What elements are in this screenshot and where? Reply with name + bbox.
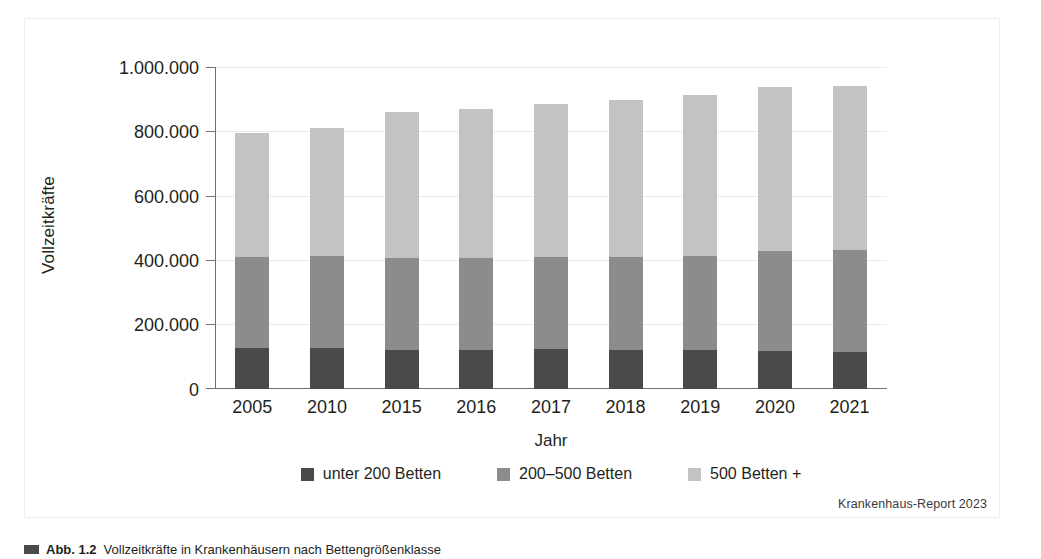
bar-segment (235, 348, 269, 389)
bar-segment (385, 258, 419, 350)
x-tick-label: 2005 (220, 397, 284, 418)
legend-item: unter 200 Betten (301, 465, 441, 483)
bar-segment (385, 112, 419, 258)
bar-segment (534, 257, 568, 348)
stacked-bar (534, 104, 568, 389)
bar-segment (534, 349, 568, 389)
bar-segment (385, 350, 419, 389)
source-note: Krankenhaus-Report 2023 (838, 497, 987, 511)
stacked-bar (459, 109, 493, 389)
x-tick-label: 2016 (444, 397, 508, 418)
y-tick-mark (206, 196, 215, 197)
legend-swatch-icon (497, 468, 510, 481)
bar-segment (833, 250, 867, 352)
bar-column (220, 67, 284, 389)
y-tick-mark (206, 131, 215, 132)
bar-segment (459, 350, 493, 389)
legend-label: 200–500 Betten (519, 465, 632, 483)
bar-column (519, 67, 583, 389)
stacked-bar (683, 95, 717, 389)
bar-segment (683, 95, 717, 257)
bar-segment (310, 256, 344, 349)
bar-segment (833, 86, 867, 250)
legend-swatch-icon (301, 468, 314, 481)
bar-segment (758, 351, 792, 389)
bar-column (594, 67, 658, 389)
x-tick-label: 2015 (370, 397, 434, 418)
plot-area (215, 67, 887, 389)
y-tick-mark (206, 324, 215, 325)
legend-item: 200–500 Betten (497, 465, 632, 483)
bar-segment (609, 350, 643, 389)
bar-segment (310, 128, 344, 256)
bar-column (444, 67, 508, 389)
bar-segment (683, 350, 717, 389)
legend-label: unter 200 Betten (323, 465, 441, 483)
stacked-bar (833, 86, 867, 389)
bar-segment (833, 352, 867, 389)
x-tick-label: 2018 (594, 397, 658, 418)
bar-segment (534, 104, 568, 257)
y-axis-title: Vollzeitkräfte (39, 115, 59, 335)
bar-group (215, 67, 887, 389)
stacked-bar (385, 112, 419, 389)
stacked-bar (235, 133, 269, 389)
y-axis-tick-labels: 1.000.000 800.000 600.000 400.000 200.00… (87, 19, 199, 519)
bar-column (668, 67, 732, 389)
y-tick-mark (206, 67, 215, 68)
legend-label: 500 Betten + (710, 465, 801, 483)
bar-segment (758, 251, 792, 351)
x-tick-label: 2020 (743, 397, 807, 418)
bar-segment (609, 100, 643, 257)
chart-canvas: Vollzeitkräfte 1.000.000 800.000 600.000… (25, 19, 1001, 519)
y-tick-label: 0 (87, 381, 199, 399)
stacked-bar (758, 87, 792, 389)
bar-column (295, 67, 359, 389)
bar-column (818, 67, 882, 389)
stacked-bar (310, 128, 344, 389)
x-tick-label: 2021 (818, 397, 882, 418)
legend-item: 500 Betten + (688, 465, 801, 483)
chart-frame: Vollzeitkräfte 1.000.000 800.000 600.000… (24, 18, 1000, 518)
y-tick-label: 1.000.000 (87, 59, 199, 77)
figure-page: Vollzeitkräfte 1.000.000 800.000 600.000… (0, 0, 1041, 559)
caption-marker-icon (24, 545, 39, 554)
bar-column (743, 67, 807, 389)
bar-segment (310, 348, 344, 389)
x-axis-title: Jahr (215, 431, 887, 451)
caption-body: Vollzeitkräfte in Krankenhäusern nach Be… (104, 542, 441, 557)
bar-segment (235, 133, 269, 257)
y-tick-label: 600.000 (87, 188, 199, 206)
stacked-bar (609, 100, 643, 389)
y-tick-mark (206, 388, 215, 389)
x-tick-label: 2019 (668, 397, 732, 418)
y-tick-mark (206, 260, 215, 261)
bar-segment (609, 257, 643, 350)
x-tick-label: 2010 (295, 397, 359, 418)
x-tick-label: 2017 (519, 397, 583, 418)
chart-legend: unter 200 Betten200–500 Betten500 Betten… (215, 465, 887, 483)
y-tick-label: 800.000 (87, 123, 199, 141)
y-tick-label: 200.000 (87, 316, 199, 334)
figure-caption: Abb. 1.2 Vollzeitkräfte in Krankenhäuser… (24, 540, 1024, 559)
bar-segment (459, 258, 493, 350)
bar-segment (459, 109, 493, 258)
y-tick-label: 400.000 (87, 252, 199, 270)
caption-number: Abb. 1.2 (46, 542, 97, 557)
bar-segment (758, 87, 792, 251)
bar-segment (235, 257, 269, 348)
bar-column (370, 67, 434, 389)
x-axis-tick-labels: 200520102015201620172018201920202021 (215, 397, 887, 418)
bar-segment (683, 256, 717, 350)
legend-swatch-icon (688, 468, 701, 481)
